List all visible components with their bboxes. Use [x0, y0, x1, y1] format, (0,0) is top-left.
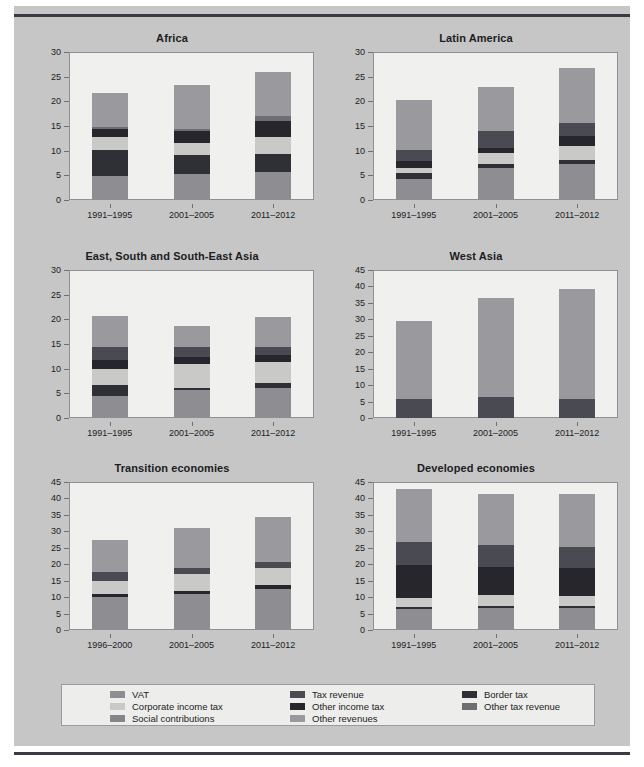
bar-segment [478, 608, 514, 630]
bar-segment [255, 72, 291, 116]
y-axis-tick-label: 25 [51, 543, 61, 553]
y-axis-tick-mark [368, 418, 373, 419]
bar-group [373, 482, 618, 630]
x-axis-tick-label: 2011–2012 [251, 428, 295, 438]
chart-panel: Developed economies051015202530354045199… [326, 462, 626, 675]
legend-item: Border tax [462, 689, 560, 700]
stacked-bar [396, 321, 432, 418]
bar-segment [92, 581, 128, 594]
legend-label: Border tax [484, 689, 528, 700]
plot-region: 0510152025303540451996–20002001–20052011… [22, 482, 322, 657]
stacked-bar [478, 298, 514, 418]
y-axis-tick-label: 10 [51, 592, 61, 602]
y-axis: 051015202530 [326, 52, 373, 201]
y-axis-tick-label: 0 [56, 413, 61, 423]
bar-segment [559, 136, 595, 146]
bar-segment [559, 547, 595, 567]
legend-item: Other income tax [290, 701, 384, 712]
chart-panel: Latin America0510152025301991–19952001–2… [326, 32, 626, 245]
x-axis: 1991–19952001–20052011–2012 [373, 422, 618, 440]
legend-item: Other tax revenue [462, 701, 560, 712]
y-axis-tick-label: 20 [355, 347, 365, 357]
legend-swatch-icon [110, 715, 125, 722]
x-axis-tick-label: 2001–2005 [473, 210, 518, 220]
x-axis-tick-mark [496, 634, 497, 638]
y-axis-tick-mark [64, 418, 69, 419]
y-axis-tick-label: 35 [355, 510, 365, 520]
bar-segment [92, 137, 128, 150]
plot-region: 0510152025301991–19952001–20052011–2012 [22, 270, 322, 445]
legend-swatch-icon [110, 703, 125, 710]
bar-segment [478, 168, 514, 200]
bar-segment [174, 143, 210, 155]
stacked-bar [174, 85, 210, 200]
bar-segment [478, 298, 514, 397]
bar-group [69, 270, 314, 418]
stacked-bar [174, 528, 210, 630]
y-axis-tick-mark [368, 630, 373, 631]
stacked-bar [559, 68, 595, 200]
x-axis-tick-label: 1991–1995 [87, 210, 132, 220]
bar-segment [92, 572, 128, 581]
bar-segment [92, 316, 128, 347]
bar-segment [92, 385, 128, 396]
y-axis-tick-label: 5 [360, 609, 365, 619]
legend-swatch-icon [290, 715, 305, 722]
y-axis-tick-label: 30 [51, 265, 61, 275]
legend-column: Border taxOther tax revenue [462, 689, 560, 713]
x-axis-tick-mark [577, 422, 578, 426]
legend-label: VAT [132, 689, 149, 700]
y-axis-tick-label: 20 [51, 96, 61, 106]
bar-group [373, 52, 618, 200]
x-axis-tick-mark [273, 422, 274, 426]
legend-label: Corporate income tax [132, 701, 223, 712]
top-rule [14, 14, 630, 17]
bar-segment [255, 589, 291, 630]
y-axis-tick-label: 15 [355, 364, 365, 374]
legend-label: Social contributions [132, 713, 214, 724]
bar-segment [559, 289, 595, 398]
x-axis-tick-mark [192, 634, 193, 638]
x-axis: 1996–20002001–20052011–2012 [69, 634, 314, 652]
bar-segment [92, 597, 128, 630]
legend-label: Other income tax [312, 701, 384, 712]
plot-region: 0510152025303540451991–19952001–20052011… [326, 482, 626, 657]
legend-swatch-icon [462, 703, 477, 710]
y-axis-tick-label: 30 [355, 314, 365, 324]
bar-segment [396, 100, 432, 149]
legend-swatch-icon [110, 691, 125, 698]
y-axis: 051015202530354045 [326, 270, 373, 419]
x-axis-tick-label: 1991–1995 [391, 428, 436, 438]
x-axis-tick-mark [273, 204, 274, 208]
bar-segment [559, 123, 595, 137]
x-axis-tick-label: 2001–2005 [169, 640, 214, 650]
y-axis-tick-label: 30 [355, 47, 365, 57]
bar-segment [174, 85, 210, 128]
x-axis-tick-mark [577, 204, 578, 208]
y-axis-tick-label: 20 [355, 559, 365, 569]
x-axis-tick-mark [110, 204, 111, 208]
bar-segment [396, 150, 432, 161]
bar-segment [559, 608, 595, 630]
bar-segment [255, 388, 291, 418]
y-axis-tick-label: 30 [51, 526, 61, 536]
x-axis-tick-mark [414, 422, 415, 426]
chart-title: Latin America [326, 32, 626, 44]
y-axis-tick-mark [368, 200, 373, 201]
bar-segment [255, 347, 291, 355]
bar-segment [174, 390, 210, 418]
x-axis-tick-label: 1991–1995 [391, 210, 436, 220]
y-axis-tick-label: 5 [360, 170, 365, 180]
x-axis-tick-label: 2001–2005 [169, 428, 214, 438]
bar-group [69, 482, 314, 630]
bar-segment [255, 137, 291, 154]
legend-swatch-icon [290, 691, 305, 698]
bar-segment [174, 574, 210, 590]
x-axis-tick-mark [110, 634, 111, 638]
x-axis-tick-label: 2011–2012 [555, 428, 599, 438]
bar-group [69, 52, 314, 200]
x-axis: 1991–19952001–20052011–2012 [69, 204, 314, 222]
bar-segment [396, 179, 432, 200]
chart-title: Transition economies [22, 462, 322, 474]
x-axis: 1991–19952001–20052011–2012 [69, 422, 314, 440]
